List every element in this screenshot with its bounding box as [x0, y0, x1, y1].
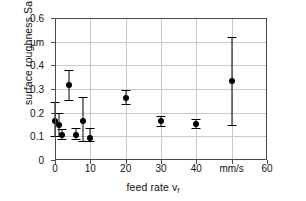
y-axis-tick-label: 0.3 — [4, 84, 44, 95]
x-axis-title-text: feed rate v — [127, 181, 178, 193]
gridline-vertical — [126, 18, 127, 160]
error-bar-cap-lower — [86, 141, 95, 142]
data-point-marker — [158, 118, 164, 124]
error-bar-cap-upper — [227, 37, 236, 38]
y-axis-tick — [51, 65, 55, 66]
y-axis-tick-label: 0.4 — [4, 60, 44, 71]
data-point-marker — [229, 78, 235, 84]
error-bar-cap-upper — [121, 90, 130, 91]
data-point-marker — [80, 118, 86, 124]
error-bar-cap-upper — [72, 128, 81, 129]
error-bar-cap-lower — [58, 139, 67, 140]
error-bar-cap-upper — [65, 70, 74, 71]
error-bar-cap-lower — [192, 128, 201, 129]
x-axis-title: feed rate vf — [0, 181, 306, 195]
y-axis-tick-label: µm — [4, 36, 44, 47]
data-point-marker — [73, 132, 79, 138]
error-bar-cap-upper — [157, 116, 166, 117]
y-axis-tick — [51, 42, 55, 43]
data-point-marker — [123, 95, 129, 101]
y-axis-tick — [51, 18, 55, 19]
error-bar-cap-lower — [227, 125, 236, 126]
plot-area — [55, 18, 267, 160]
error-bar-cap-upper — [51, 102, 60, 103]
x-axis-tick-label: 60 — [244, 163, 290, 174]
error-bar-cap-lower — [72, 139, 81, 140]
y-axis-tick — [51, 89, 55, 90]
error-bar-cap-upper — [54, 113, 63, 114]
error-bar-cap-upper — [79, 97, 88, 98]
y-axis-tick-label: 0.2 — [4, 107, 44, 118]
chart-figure: surface roughness Sa feed rate vf 00.10.… — [0, 0, 306, 201]
y-axis-tick-label: 0.1 — [4, 131, 44, 142]
data-point-marker — [56, 122, 62, 128]
error-bar-cap-upper — [86, 128, 95, 129]
data-point-marker — [66, 82, 72, 88]
x-axis-title-subscript: f — [177, 186, 179, 195]
gridline-vertical — [161, 18, 162, 160]
gridline-vertical — [196, 18, 197, 160]
data-point-marker — [193, 121, 199, 127]
error-bar-cap-lower — [157, 126, 166, 127]
y-axis-tick-label: 0.6 — [4, 13, 44, 24]
error-bar-cap-upper — [192, 119, 201, 120]
data-point-marker — [87, 135, 93, 141]
data-point-marker — [59, 132, 65, 138]
error-bar-cap-lower — [121, 104, 130, 105]
error-bar-cap-lower — [65, 100, 74, 101]
error-bar-cap-upper — [58, 129, 67, 130]
